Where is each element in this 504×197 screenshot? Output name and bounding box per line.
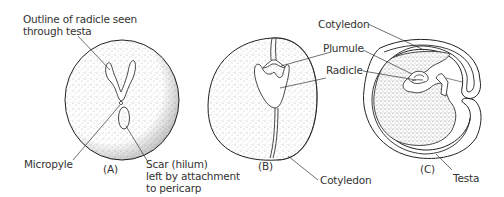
label-scar-hilum: Scar (hilum) left by attachment to peric… [146,158,240,194]
caption-a: (A) [103,163,118,175]
seed-structure-diagram: Outline of radicle seen through testa Mi… [0,0,504,197]
label-cotyledon-b: Cotyledon [320,174,371,186]
caption-b: (B) [258,160,273,172]
seed-a-external-view [65,40,179,160]
label-testa: Testa [453,172,479,184]
label-radicle: Radicle [326,64,363,76]
caption-c: (C) [420,163,435,175]
label-micropyle: Micropyle [24,158,73,170]
label-cotyledon-c: Cotyledon [318,18,369,30]
seed-c-section-view [363,39,481,158]
label-plumule: Plumule [323,42,364,54]
label-radicle-outline: Outline of radicle seen through testa [23,13,137,37]
leader-cotyledon-b [288,156,318,180]
seed-b-opened-view [208,38,317,160]
